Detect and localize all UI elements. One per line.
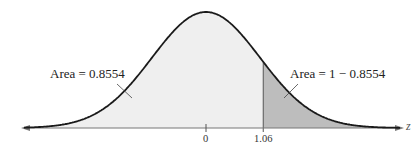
right-area-label: Area = 1 − 0.8554 (290, 66, 385, 82)
mean-tick-label: 0 (203, 133, 208, 144)
z-axis-label: z (406, 119, 411, 134)
z-tick-label: 1.06 (254, 133, 272, 144)
left-area-label: Area = 0.8554 (50, 66, 125, 82)
